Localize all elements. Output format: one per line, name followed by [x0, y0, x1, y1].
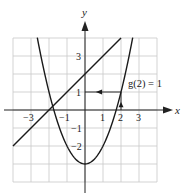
x-tick-label: −3	[23, 112, 34, 123]
axes: x y	[4, 6, 180, 193]
x-axis-label: x	[174, 104, 180, 116]
function-graph: x y −3−112331−1−2 g(2) = 1	[0, 0, 182, 196]
y-axis-label: y	[81, 6, 87, 18]
y-tick-label: 1	[76, 87, 81, 98]
annotation-g2: g(2) = 1	[128, 78, 162, 90]
y-axis-arrow-icon	[82, 21, 89, 31]
x-tick-label: 1	[100, 112, 105, 123]
y-tick-label: −1	[71, 123, 82, 134]
x-axis-arrow-icon	[163, 107, 173, 114]
up-arrow-icon	[119, 102, 124, 107]
x-tick-label: 2	[118, 112, 123, 123]
x-tick-label: 3	[136, 112, 141, 123]
x-tick-label: −1	[59, 112, 70, 123]
tick-labels: −3−112331−1−2	[23, 51, 141, 152]
y-tick-label: −2	[71, 141, 82, 152]
y-tick-label: 3	[76, 51, 81, 62]
left-arrow-icon	[96, 90, 102, 95]
